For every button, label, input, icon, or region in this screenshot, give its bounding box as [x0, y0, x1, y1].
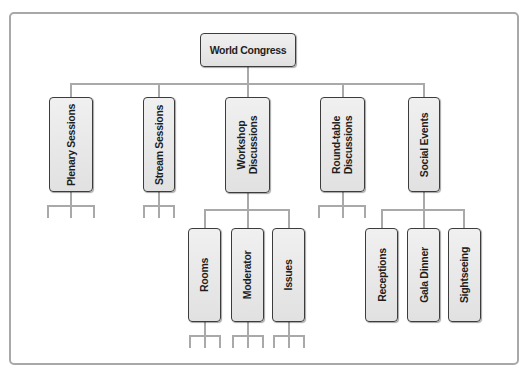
connector	[219, 335, 221, 348]
connector	[143, 205, 175, 207]
node-label: Social Events	[418, 112, 430, 176]
node-social-events[interactable]: Social Events	[408, 97, 440, 192]
node-workshop-discussions[interactable]: Workshop Discussions	[225, 97, 270, 193]
connector	[204, 209, 290, 211]
node-issues[interactable]: Issues	[272, 228, 305, 322]
connector	[381, 209, 465, 211]
node-label: Gala Dinner	[418, 247, 430, 303]
connector	[364, 205, 366, 218]
connector	[273, 335, 305, 337]
connector	[288, 209, 290, 228]
node-receptions[interactable]: Receptions	[365, 228, 398, 322]
connector	[93, 205, 95, 218]
connector	[423, 83, 425, 97]
node-label-line: Discussions	[343, 115, 355, 174]
connector	[342, 83, 344, 97]
connector	[318, 205, 366, 207]
connector	[262, 335, 264, 348]
node-round-table-discussions[interactable]: Round-table Discussions	[320, 97, 365, 192]
connector	[189, 335, 221, 337]
connector	[381, 209, 383, 228]
connector	[463, 209, 465, 228]
connector	[47, 205, 95, 207]
connector	[232, 335, 234, 348]
node-label-line: Workshop	[236, 121, 248, 170]
node-label-line: Round-table	[331, 116, 343, 174]
node-moderator[interactable]: Moderator	[231, 228, 264, 322]
node-gala-dinner[interactable]: Gala Dinner	[407, 228, 440, 322]
node-label: Rooms	[199, 258, 211, 292]
node-world-congress[interactable]: World Congress	[200, 33, 296, 67]
connector	[247, 83, 249, 97]
node-sightseeing[interactable]: Sightseeing	[448, 228, 481, 322]
node-label-line: Discussions	[248, 116, 260, 175]
node-label: Stream Sessions	[153, 104, 165, 184]
node-stream-sessions[interactable]: Stream Sessions	[143, 97, 175, 192]
node-label: Sightseeing	[459, 247, 471, 303]
node-label: Receptions	[376, 248, 388, 302]
connector	[143, 205, 145, 218]
node-label: Moderator	[242, 251, 254, 300]
connector	[232, 335, 264, 337]
connector	[189, 335, 191, 348]
node-label: Plenary Sessions	[65, 103, 77, 185]
node-label: World Congress	[210, 44, 287, 56]
connector	[273, 335, 275, 348]
connector	[204, 209, 206, 228]
node-label: Round-table Discussions	[331, 115, 355, 174]
connector	[47, 205, 49, 218]
connector	[173, 205, 175, 218]
connector	[70, 83, 72, 97]
node-label: Issues	[282, 260, 294, 291]
connector	[318, 205, 320, 218]
node-plenary-sessions[interactable]: Plenary Sessions	[49, 97, 93, 192]
node-label: Workshop Discussions	[236, 116, 260, 175]
connector	[303, 335, 305, 348]
connector	[158, 83, 160, 97]
node-rooms[interactable]: Rooms	[188, 228, 221, 322]
